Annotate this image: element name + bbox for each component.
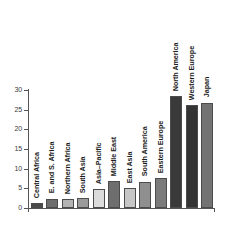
bar-chart: 051015202530 Central AfricaE. and S. Afr… — [0, 0, 234, 225]
bar-slot: South Asia — [77, 0, 89, 208]
y-axis-tick-label: 10 — [0, 165, 22, 172]
y-axis-tick-mark — [24, 129, 28, 130]
bar-slot: Northern Africa — [62, 0, 74, 208]
bar-category-label: Eastern Europe — [157, 121, 164, 173]
bar-category-label: Central Africa — [33, 152, 40, 198]
bar-slot: Eastern Europe — [155, 0, 167, 208]
y-axis-tick-label: 0 — [0, 204, 22, 211]
bar-category-label: Japan — [204, 77, 211, 98]
bar-category-label: Middle East — [111, 137, 118, 176]
bar-category-label: E. and S. Africa — [49, 142, 56, 194]
bar[interactable] — [46, 199, 58, 208]
y-axis-tick-mark — [24, 110, 28, 111]
bar[interactable] — [93, 189, 105, 208]
bar[interactable] — [77, 198, 89, 208]
bar-slot: Asia–Pacific — [93, 0, 105, 208]
y-axis-tick-mark — [24, 149, 28, 150]
bar-slot: East Asia — [124, 0, 136, 208]
y-axis-tick-mark — [24, 169, 28, 170]
bar[interactable] — [170, 96, 182, 208]
bar[interactable] — [155, 178, 167, 208]
bar[interactable] — [124, 188, 136, 208]
bar-slot: Middle East — [108, 0, 120, 208]
bar[interactable] — [108, 181, 120, 208]
bar-category-label: Asia–Pacific — [95, 142, 102, 184]
bar[interactable] — [31, 203, 43, 208]
y-axis-tick-label: 25 — [0, 106, 22, 113]
y-axis-tick-label: 5 — [0, 184, 22, 191]
bar-category-label: Northern Africa — [64, 142, 71, 194]
bar-category-label: South America — [142, 127, 149, 177]
y-axis-tick-mark — [24, 208, 28, 209]
y-axis-tick-mark — [24, 188, 28, 189]
bar-slot: Japan — [201, 0, 213, 208]
bar-group: Central AfricaE. and S. AfricaNorthern A… — [29, 0, 215, 225]
bar[interactable] — [186, 105, 198, 208]
bar-slot: Central Africa — [31, 0, 43, 208]
bar[interactable] — [201, 103, 213, 208]
y-axis-tick-label: 15 — [0, 145, 22, 152]
bar-category-label: East Asia — [126, 151, 133, 183]
bar-category-label: Western Europe — [188, 46, 195, 100]
y-axis-tick-label: 30 — [0, 86, 22, 93]
bar-slot: Western Europe — [186, 0, 198, 208]
bar[interactable] — [139, 182, 151, 208]
bar-slot: South America — [139, 0, 151, 208]
bar-category-label: South Asia — [80, 156, 87, 193]
y-axis-tick-mark — [24, 90, 28, 91]
bar-category-label: North America — [173, 42, 180, 91]
bar-slot: North America — [170, 0, 182, 208]
y-axis-tick-label: 20 — [0, 125, 22, 132]
bar-slot: E. and S. Africa — [46, 0, 58, 208]
bar[interactable] — [62, 199, 74, 208]
plot-area: 051015202530 Central AfricaE. and S. Afr… — [0, 0, 234, 225]
